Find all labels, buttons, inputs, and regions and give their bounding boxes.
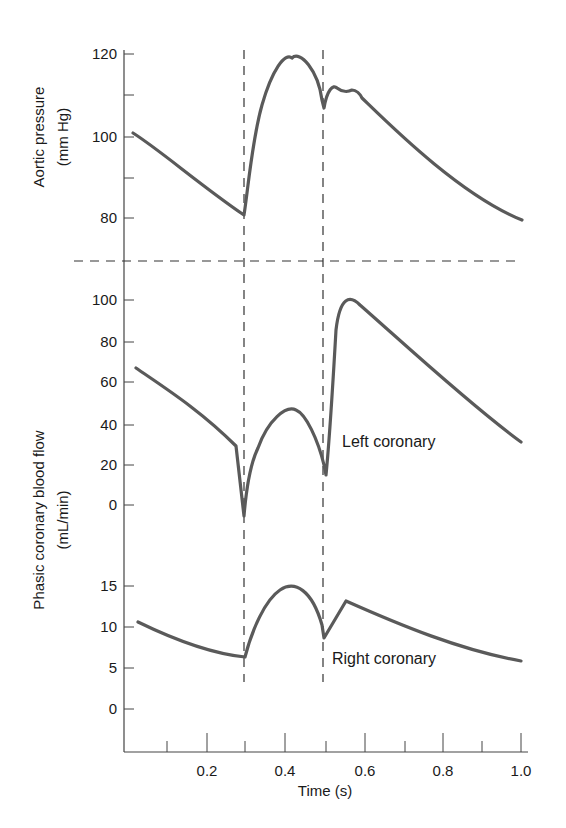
- x-tick-label: 0.8: [433, 762, 454, 779]
- aortic-pressure-curve: [133, 56, 522, 220]
- aortic-tick-label: 120: [92, 45, 117, 62]
- left-tick-label: 40: [100, 416, 117, 433]
- flow-axis-units: (mL/min): [54, 490, 71, 549]
- aortic-tick-label: 100: [92, 128, 117, 145]
- aortic-axis-title: Aortic pressure: [30, 87, 47, 188]
- x-tick-label: 0.2: [197, 762, 218, 779]
- flow-axis-title: Phasic coronary blood flow: [30, 430, 47, 609]
- left-coronary-y-ticks: 100 80 60 40 20 0: [92, 291, 134, 513]
- left-tick-label: 60: [100, 373, 117, 390]
- right-coronary-y-ticks: 15 10 5 0: [100, 577, 134, 717]
- x-axis-title: Time (s): [298, 782, 352, 799]
- x-tick-label: 1.0: [511, 762, 532, 779]
- x-tick-label: 0.4: [275, 762, 296, 779]
- coronary-flow-chart: 120 100 80 100 80 60 40 20 0 15 10 5 0: [0, 0, 566, 828]
- right-tick-label: 0: [109, 700, 117, 717]
- left-coronary-label: Left coronary: [342, 433, 435, 450]
- left-tick-label: 0: [109, 496, 117, 513]
- right-coronary-curve: [138, 586, 521, 661]
- x-axis-ticks: 0.2 0.4 0.6 0.8 1.0: [167, 733, 531, 779]
- right-coronary-label: Right coronary: [332, 650, 436, 667]
- right-tick-label: 10: [100, 618, 117, 635]
- left-tick-label: 20: [100, 456, 117, 473]
- aortic-tick-label: 80: [100, 209, 117, 226]
- left-tick-label: 80: [100, 333, 117, 350]
- left-coronary-curve: [136, 299, 521, 516]
- aortic-y-ticks: 120 100 80: [92, 45, 134, 226]
- x-tick-label: 0.6: [355, 762, 376, 779]
- left-tick-label: 100: [92, 291, 117, 308]
- right-tick-label: 5: [109, 659, 117, 676]
- right-tick-label: 15: [100, 577, 117, 594]
- aortic-axis-units: (mm Hg): [54, 108, 71, 166]
